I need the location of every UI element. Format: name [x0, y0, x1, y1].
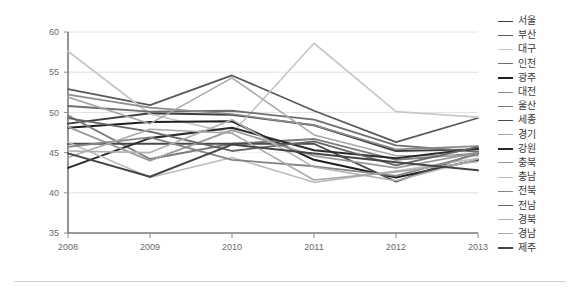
legend-item-label: 광주 — [518, 73, 536, 83]
legend-swatch-icon — [498, 191, 513, 192]
legend-item-인천[interactable]: 인천 — [498, 57, 572, 71]
x-axis-ticks: 200820092010201120122013 — [58, 233, 488, 252]
legend-item-label: 전북 — [518, 186, 536, 196]
legend-item-대구[interactable]: 대구 — [498, 42, 572, 56]
legend-item-경기[interactable]: 경기 — [498, 128, 572, 142]
y-tick-label-40: 40 — [49, 188, 59, 198]
y-tick-label-55: 55 — [49, 67, 59, 77]
legend-item-전남[interactable]: 전남 — [498, 198, 572, 212]
legend-item-label: 충남 — [518, 172, 536, 182]
legend-swatch-icon — [498, 134, 513, 135]
legend-item-충남[interactable]: 충남 — [498, 170, 572, 184]
axes — [68, 32, 478, 233]
legend-item-label: 서울 — [518, 16, 536, 26]
legend-swatch-icon — [498, 177, 513, 178]
legend-swatch-icon — [498, 120, 513, 121]
legend-item-대전[interactable]: 대전 — [498, 85, 572, 99]
legend-item-서울[interactable]: 서울 — [498, 14, 572, 28]
legend-item-label: 세종 — [518, 115, 536, 125]
series-line-울산 — [68, 116, 478, 160]
chart-legend: 서울부산대구인천광주대전울산세종경기강원충북충남전북전남경북경남제주 — [498, 14, 572, 255]
legend-swatch-icon — [498, 219, 513, 220]
y-tick-label-50: 50 — [49, 108, 59, 118]
x-tick-label-2011: 2011 — [304, 242, 323, 252]
legend-swatch-icon — [498, 21, 513, 22]
legend-item-label: 대전 — [518, 87, 536, 97]
legend-item-전북[interactable]: 전북 — [498, 184, 572, 198]
legend-item-label: 경북 — [518, 215, 536, 225]
legend-swatch-icon — [498, 205, 513, 206]
legend-item-충북[interactable]: 충북 — [498, 156, 572, 170]
legend-item-경남[interactable]: 경남 — [498, 227, 572, 241]
x-tick-label-2009: 2009 — [140, 242, 160, 252]
series-lines — [68, 43, 478, 182]
y-tick-label-45: 45 — [49, 148, 59, 158]
line-chart: 354045505560 200820092010201120122013 — [0, 0, 492, 268]
legend-swatch-icon — [498, 162, 513, 163]
legend-item-광주[interactable]: 광주 — [498, 71, 572, 85]
legend-swatch-icon — [498, 247, 513, 249]
legend-item-label: 경남 — [518, 229, 536, 239]
legend-item-label: 울산 — [518, 101, 536, 111]
legend-item-강원[interactable]: 강원 — [498, 142, 572, 156]
legend-item-label: 전남 — [518, 201, 536, 211]
x-tick-label-2010: 2010 — [222, 242, 242, 252]
legend-item-label: 경기 — [518, 130, 536, 140]
legend-swatch-icon — [498, 106, 513, 107]
legend-item-label: 대구 — [518, 44, 536, 54]
legend-item-label: 인천 — [518, 59, 536, 69]
x-tick-label-2012: 2012 — [386, 242, 406, 252]
x-tick-label-2013: 2013 — [468, 242, 488, 252]
legend-swatch-icon — [498, 49, 513, 50]
bottom-divider — [14, 281, 566, 282]
legend-swatch-icon — [498, 92, 513, 93]
legend-swatch-icon — [498, 63, 513, 64]
legend-item-label: 부산 — [518, 30, 536, 40]
x-tick-label-2008: 2008 — [58, 242, 78, 252]
legend-item-label: 제주 — [518, 243, 536, 253]
legend-swatch-icon — [498, 35, 513, 36]
y-tick-label-35: 35 — [49, 228, 59, 238]
chart-svg: 354045505560 200820092010201120122013 — [0, 0, 492, 268]
chart-screenshot: 354045505560 200820092010201120122013 서울… — [0, 0, 576, 298]
legend-item-경북[interactable]: 경북 — [498, 213, 572, 227]
legend-swatch-icon — [498, 233, 513, 234]
series-line-부산 — [68, 75, 478, 142]
legend-item-울산[interactable]: 울산 — [498, 99, 572, 113]
legend-swatch-icon — [498, 148, 513, 150]
y-axis-ticks: 354045505560 — [49, 27, 68, 238]
legend-item-제주[interactable]: 제주 — [498, 241, 572, 255]
legend-item-부산[interactable]: 부산 — [498, 28, 572, 42]
legend-item-세종[interactable]: 세종 — [498, 113, 572, 127]
legend-item-label: 강원 — [518, 144, 536, 154]
y-tick-label-60: 60 — [49, 27, 59, 37]
legend-item-label: 충북 — [518, 158, 536, 168]
legend-swatch-icon — [498, 77, 513, 79]
